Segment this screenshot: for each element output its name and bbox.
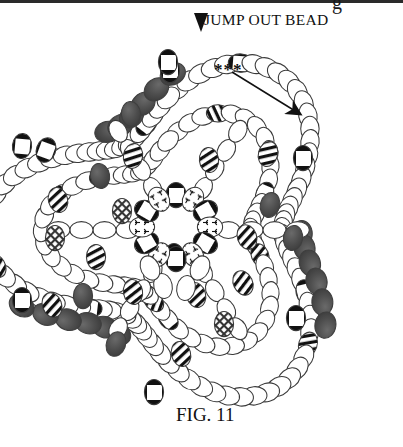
- bead-diagonal: [86, 244, 105, 269]
- bead-grid: [158, 49, 177, 74]
- bead-outline: [70, 222, 93, 239]
- beadwork-diagram: [0, 0, 403, 447]
- figure-caption: FIG. 11: [176, 404, 234, 426]
- bead-diagonal: [229, 268, 257, 299]
- bead-grid: [144, 379, 163, 404]
- stars-label: ***: [214, 60, 243, 80]
- bead-checker: [45, 225, 64, 250]
- bead-grid: [293, 145, 312, 170]
- bead-grid: [11, 133, 32, 160]
- bead-grid: [12, 287, 31, 312]
- bead-checker: [214, 311, 233, 336]
- bead-grid: [286, 305, 305, 330]
- jump-out-bead-label: JUMP OUT BEAD: [204, 11, 328, 29]
- bead-outline: [263, 222, 286, 239]
- figure-caption-text: FIG. 11: [176, 404, 234, 425]
- bead-checker: [112, 198, 131, 223]
- bead-dark: [73, 283, 92, 308]
- figure-page: g: [0, 0, 403, 447]
- bead-outline: [93, 222, 116, 239]
